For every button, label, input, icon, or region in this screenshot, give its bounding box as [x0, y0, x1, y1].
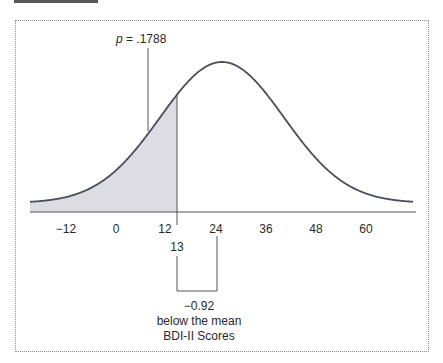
normal-distribution-chart: p = .1788 −12 0 12 24 36 48 60 13 −0.92 …: [0, 0, 443, 363]
x-tick-36: 36: [259, 222, 273, 236]
x-tick-24: 24: [209, 222, 223, 236]
shaded-probability-area: [30, 95, 177, 212]
z-caption: below the mean: [157, 314, 242, 328]
p-value-text: = .1788: [123, 32, 167, 46]
z-score-label: −0.92: [184, 299, 215, 313]
x-tick-neg12: −12: [56, 222, 77, 236]
x-tick-12: 12: [158, 222, 172, 236]
x-tick-labels: −12 0 12 24 36 48 60: [56, 222, 373, 236]
x-tick-60: 60: [359, 222, 373, 236]
p-value-label: p = .1788: [115, 32, 167, 46]
marker-label-13: 13: [170, 240, 184, 254]
x-tick-48: 48: [309, 222, 323, 236]
x-axis-title: BDI-II Scores: [163, 329, 234, 343]
normal-curve: [30, 62, 413, 202]
x-tick-0: 0: [113, 222, 120, 236]
